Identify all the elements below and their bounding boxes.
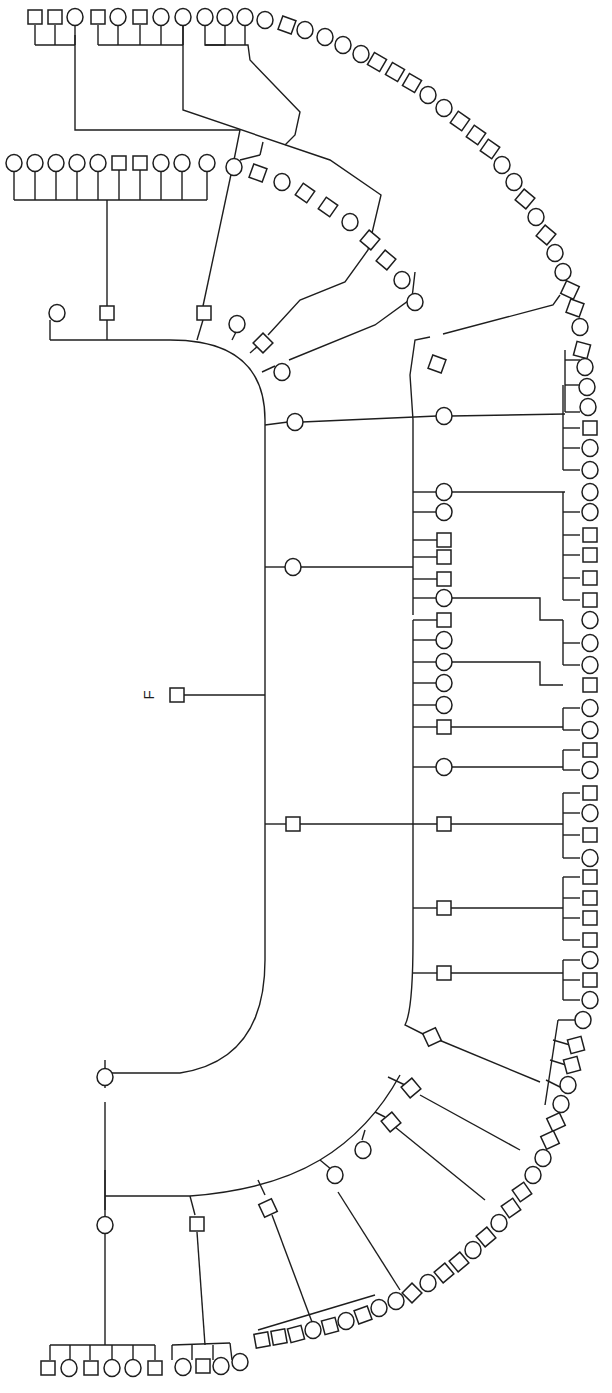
female-circle-icon xyxy=(582,850,598,867)
female-circle-icon xyxy=(494,157,510,174)
female-circle-icon xyxy=(436,484,452,501)
female-circle-icon xyxy=(582,462,598,479)
male-square-icon xyxy=(112,156,126,170)
male-square-icon xyxy=(385,62,404,81)
male-square-icon xyxy=(41,1361,55,1375)
male-square-icon xyxy=(437,817,451,831)
female-circle-icon xyxy=(213,1358,229,1375)
female-circle-icon xyxy=(582,700,598,717)
female-circle-icon xyxy=(104,1360,120,1377)
female-circle-icon xyxy=(69,155,85,172)
pedigree-line xyxy=(105,1075,400,1196)
female-circle-icon xyxy=(229,316,245,333)
female-circle-icon xyxy=(27,155,43,172)
female-circle-icon xyxy=(582,657,598,674)
male-square-icon xyxy=(148,1361,162,1375)
male-square-icon xyxy=(583,973,597,987)
female-circle-icon xyxy=(582,722,598,739)
female-circle-icon xyxy=(6,155,22,172)
pedigree-chart: F xyxy=(0,0,612,1393)
female-circle-icon xyxy=(555,264,571,281)
proband: F xyxy=(140,688,185,702)
female-circle-icon xyxy=(572,319,588,336)
male-square-icon xyxy=(287,1325,304,1342)
pedigree-symbols xyxy=(6,9,598,1377)
male-square-icon xyxy=(295,183,314,202)
female-circle-icon xyxy=(199,155,215,172)
male-square-icon xyxy=(437,966,451,980)
male-square-icon xyxy=(563,1056,580,1073)
male-square-icon xyxy=(567,1036,584,1053)
male-square-icon xyxy=(536,225,556,245)
pedigree-line xyxy=(451,598,563,620)
female-circle-icon xyxy=(582,992,598,1009)
male-square-icon xyxy=(354,1306,372,1324)
male-square-icon xyxy=(583,678,597,692)
pedigree-line xyxy=(205,25,245,45)
pedigree-line xyxy=(410,337,430,375)
male-square-icon xyxy=(437,720,451,734)
proband-male-square-icon xyxy=(170,688,184,702)
female-circle-icon xyxy=(48,155,64,172)
female-circle-icon xyxy=(353,46,369,63)
female-circle-icon xyxy=(197,9,213,26)
female-circle-icon xyxy=(125,1360,141,1377)
pedigree-line xyxy=(375,1112,385,1117)
male-square-icon xyxy=(501,1198,520,1217)
pedigree-line xyxy=(240,155,260,160)
pedigree-line xyxy=(338,1192,400,1290)
male-square-icon xyxy=(583,571,597,585)
male-square-icon xyxy=(437,613,451,627)
male-square-icon xyxy=(253,333,273,353)
male-square-icon xyxy=(402,73,421,92)
pedigree-line xyxy=(258,1180,265,1195)
pedigree-line xyxy=(262,366,275,372)
male-square-icon xyxy=(561,281,580,300)
male-square-icon xyxy=(583,911,597,925)
female-circle-icon xyxy=(553,1096,569,1113)
pedigree-line xyxy=(197,320,203,340)
female-circle-icon xyxy=(407,294,423,311)
female-circle-icon xyxy=(175,1359,191,1376)
male-square-icon xyxy=(367,52,386,71)
male-square-icon xyxy=(259,1199,278,1218)
pedigree-line xyxy=(451,662,563,685)
male-square-icon xyxy=(278,16,296,34)
male-square-icon xyxy=(480,139,499,158)
pedigree-line xyxy=(405,940,425,1035)
female-circle-icon xyxy=(582,635,598,652)
female-circle-icon xyxy=(436,654,452,671)
female-circle-icon xyxy=(342,214,358,231)
female-circle-icon xyxy=(97,1217,113,1234)
male-square-icon xyxy=(566,299,584,317)
female-circle-icon xyxy=(67,9,83,26)
female-circle-icon xyxy=(436,632,452,649)
female-circle-icon xyxy=(217,9,233,26)
male-square-icon xyxy=(450,111,469,130)
male-square-icon xyxy=(583,786,597,800)
female-circle-icon xyxy=(582,440,598,457)
male-square-icon xyxy=(197,306,211,320)
male-square-icon xyxy=(437,533,451,547)
female-circle-icon xyxy=(525,1167,541,1184)
male-square-icon xyxy=(133,10,147,24)
male-square-icon xyxy=(190,1217,204,1231)
female-circle-icon xyxy=(90,155,106,172)
female-circle-icon xyxy=(465,1242,481,1259)
female-circle-icon xyxy=(237,9,253,26)
female-circle-icon xyxy=(305,1322,321,1339)
pedigree-line xyxy=(197,1232,205,1345)
male-square-icon xyxy=(583,870,597,884)
female-circle-icon xyxy=(547,245,563,262)
male-square-icon xyxy=(376,250,396,270)
male-square-icon xyxy=(28,10,42,24)
pedigree-line xyxy=(395,1127,485,1200)
female-circle-icon xyxy=(97,1069,113,1086)
pedigree-line xyxy=(205,25,300,145)
male-square-icon xyxy=(512,1182,531,1201)
pedigree-line xyxy=(443,295,560,334)
male-square-icon xyxy=(48,10,62,24)
female-circle-icon xyxy=(257,12,273,29)
male-square-icon xyxy=(401,1078,421,1098)
male-square-icon xyxy=(196,1359,210,1373)
